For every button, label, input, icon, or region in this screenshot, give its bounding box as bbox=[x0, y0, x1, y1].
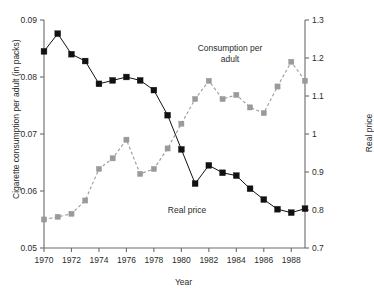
price-series-annotation: Real price bbox=[152, 205, 222, 216]
data-point-marker bbox=[220, 96, 225, 101]
data-point-marker bbox=[234, 92, 239, 97]
y-axis-left-label: Cigarette consumption per adult (in pack… bbox=[11, 69, 21, 199]
data-point-marker bbox=[110, 78, 116, 84]
y-axis-left-tick-label: 0.09 bbox=[20, 15, 37, 25]
x-axis-tick-label: 1988 bbox=[282, 255, 301, 265]
data-point-marker bbox=[233, 173, 239, 179]
data-point-marker bbox=[206, 78, 211, 83]
data-point-marker bbox=[55, 214, 60, 219]
y-axis-right-tick-label: 1.1 bbox=[312, 91, 324, 101]
data-point-marker bbox=[288, 210, 294, 216]
x-axis-tick-label: 1972 bbox=[62, 255, 81, 265]
data-point-marker bbox=[178, 146, 184, 152]
data-point-marker bbox=[302, 206, 308, 212]
data-point-marker bbox=[138, 171, 143, 176]
data-point-marker bbox=[247, 186, 253, 192]
y-axis-right-tick-label: 1.3 bbox=[312, 15, 324, 25]
data-point-marker bbox=[124, 74, 130, 80]
data-point-marker bbox=[151, 166, 156, 171]
data-point-marker bbox=[220, 170, 226, 176]
data-point-marker bbox=[41, 48, 47, 54]
data-point-marker bbox=[124, 137, 129, 142]
data-point-marker bbox=[96, 81, 102, 87]
y-axis-right-tick-label: 0.7 bbox=[312, 243, 324, 253]
y-axis-right-tick-label: 0.9 bbox=[312, 167, 324, 177]
y-axis-left-tick-label: 0.07 bbox=[20, 129, 37, 139]
data-point-marker bbox=[69, 51, 75, 57]
x-axis-tick-label: 1978 bbox=[144, 255, 163, 265]
data-point-marker bbox=[69, 211, 74, 216]
data-point-marker bbox=[165, 112, 171, 118]
data-point-marker bbox=[192, 181, 198, 187]
x-axis-tick-label: 1970 bbox=[35, 255, 54, 265]
data-point-marker bbox=[179, 121, 184, 126]
y-axis-left-tick-label: 0.06 bbox=[20, 186, 37, 196]
data-point-marker bbox=[83, 198, 88, 203]
data-point-marker bbox=[206, 162, 212, 168]
data-point-marker bbox=[151, 87, 157, 93]
x-axis-tick-label: 1980 bbox=[172, 255, 191, 265]
x-axis-tick-label: 1976 bbox=[117, 255, 136, 265]
data-point-marker bbox=[261, 111, 266, 116]
y-axis-right-tick-label: 1 bbox=[312, 129, 317, 139]
data-point-marker bbox=[275, 206, 281, 212]
data-point-marker bbox=[165, 146, 170, 151]
data-point-marker bbox=[41, 217, 46, 222]
x-axis-tick-label: 1982 bbox=[199, 255, 218, 265]
data-point-marker bbox=[110, 156, 115, 161]
y-axis-right-label: Real price bbox=[364, 68, 374, 198]
data-point-marker bbox=[96, 166, 101, 171]
data-point-marker bbox=[82, 58, 88, 64]
y-axis-left-tick-label: 0.08 bbox=[20, 72, 37, 82]
y-axis-right-tick-label: 1.2 bbox=[312, 53, 324, 63]
series-line-real-price bbox=[44, 62, 305, 220]
data-point-marker bbox=[289, 59, 294, 64]
x-axis-tick-label: 1986 bbox=[254, 255, 273, 265]
y-axis-right-tick-label: 0.8 bbox=[312, 205, 324, 215]
data-point-marker bbox=[247, 105, 252, 110]
data-point-marker bbox=[275, 84, 280, 89]
data-point-marker bbox=[193, 96, 198, 101]
x-axis-tick-label: 1974 bbox=[89, 255, 108, 265]
data-point-marker bbox=[261, 197, 267, 203]
data-point-marker bbox=[137, 78, 143, 84]
data-point-marker bbox=[302, 78, 307, 83]
x-axis-tick-label: 1984 bbox=[227, 255, 246, 265]
consumption-series-annotation: Consumption per adult bbox=[176, 43, 284, 65]
data-point-marker bbox=[55, 31, 61, 37]
y-axis-left-tick-label: 0.05 bbox=[20, 243, 37, 253]
x-axis-label: Year bbox=[0, 277, 367, 287]
